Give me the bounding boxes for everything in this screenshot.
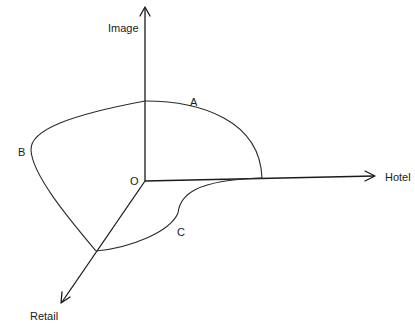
- curve-c: [96, 178, 262, 251]
- curve-a: [145, 101, 262, 178]
- positioning-diagram: Image Hotel Retail O A B C: [0, 0, 415, 336]
- image-axis-label: Image: [108, 22, 139, 34]
- retail-axis: [62, 181, 145, 302]
- hotel-axis-label: Hotel: [385, 171, 411, 183]
- curve-c-label: C: [177, 226, 185, 238]
- origin-label: O: [130, 175, 139, 187]
- retail-axis-label: Retail: [30, 310, 58, 322]
- curve-b-label: B: [18, 146, 25, 158]
- curve-b: [31, 101, 145, 251]
- curve-a-label: A: [190, 96, 198, 108]
